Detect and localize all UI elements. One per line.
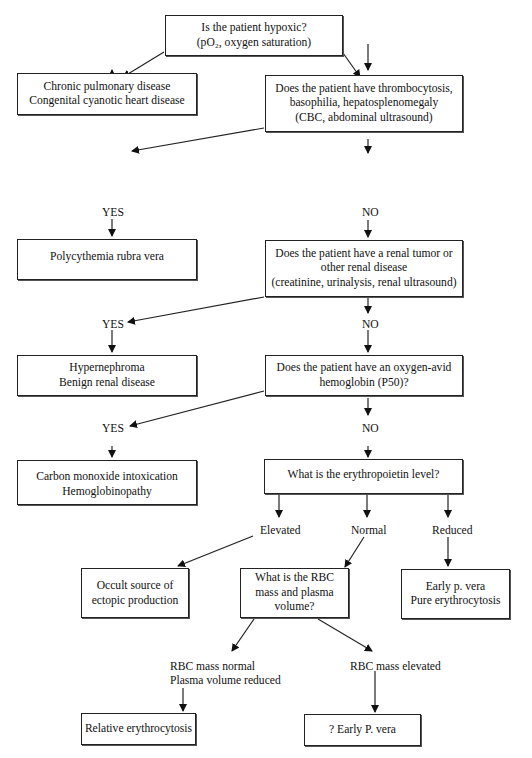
yes-label-4: YES [102, 422, 124, 436]
node-text: Hypernephroma [69, 361, 144, 376]
node-text: Is the patient hypoxic? [201, 21, 306, 36]
node-pulmonary: Chronic pulmonary disease Congenital cya… [17, 73, 197, 115]
node-hypoxic: Is the patient hypoxic? (pO₂, oxygen sat… [165, 15, 343, 56]
node-rbc-question: What is the RBC mass and plasma volume? [240, 568, 349, 618]
normal-label: Normal [351, 524, 386, 538]
node-text: Does the patient have thrombocytosis, [275, 82, 452, 97]
node-text: (CBC, abdominal ultrasound) [295, 111, 433, 126]
node-thrombocytosis: Does the patient have thrombocytosis, ba… [265, 75, 463, 132]
elevated-label: Elevated [260, 524, 301, 538]
node-early-pv: Early p. vera Pure erythrocytosis [401, 569, 510, 619]
node-text: What is the erythropoietin level? [288, 468, 440, 483]
node-text: Carbon monoxide intoxication [36, 470, 178, 485]
node-text: Does the patient have an oxygen-avid [277, 361, 452, 376]
node-epo-question: What is the erythropoietin level? [264, 459, 463, 494]
node-co-dx: Carbon monoxide intoxication Hemoglobino… [17, 460, 197, 505]
node-text: volume? [275, 600, 315, 615]
node-occult: Occult source of ectopic production [81, 568, 189, 618]
node-relative: Relative erythrocytosis [81, 713, 196, 745]
node-text: (pO₂, oxygen saturation) [197, 36, 311, 51]
node-question-early-pv: ? Early P. vera [304, 714, 421, 746]
node-text: Chronic pulmonary disease [44, 80, 171, 95]
node-text: Pure erythrocytosis [411, 594, 501, 609]
rbc-normal-label: RBC mass normal Plasma volume reduced [170, 660, 281, 688]
yes-label-3: YES [102, 318, 124, 332]
node-renal-question: Does the patient have a renal tumor or o… [265, 240, 463, 297]
node-text: Polycythemia rubra vera [50, 250, 164, 265]
yes-label-2: YES [102, 206, 124, 220]
node-hemoglobin-question: Does the patient have an oxygen-avid hem… [265, 355, 463, 396]
node-text: basophilia, hepatosplenomegaly [290, 96, 439, 111]
node-renal-dx: Hypernephroma Benign renal disease [17, 355, 197, 396]
node-text: Early p. vera [426, 580, 486, 595]
node-text: Occult source of [97, 579, 174, 594]
reduced-label: Reduced [432, 524, 473, 538]
rbc-elevated-label: RBC mass elevated [350, 660, 441, 674]
node-text: mass and plasma [255, 586, 334, 601]
no-label-2: NO [362, 206, 379, 220]
no-label-4: NO [362, 422, 379, 436]
node-text: Relative erythrocytosis [85, 722, 192, 737]
rbc-normal-line-1: RBC mass normal [170, 660, 281, 674]
rbc-normal-line-2: Plasma volume reduced [170, 674, 281, 688]
node-text: Benign renal disease [59, 376, 155, 391]
no-label-3: NO [362, 318, 379, 332]
node-text: hemoglobin (P50)? [319, 376, 408, 391]
node-text: What is the RBC [255, 571, 334, 586]
node-text: ectopic production [92, 594, 179, 609]
node-text: Hemoglobinopathy [62, 485, 152, 500]
node-text: (creatinine, urinalysis, renal ultrasoun… [271, 276, 456, 291]
node-text: other renal disease [321, 261, 407, 276]
node-text: ? Early P. vera [329, 723, 396, 738]
node-text: Does the patient have a renal tumor or [275, 247, 452, 262]
node-prv: Polycythemia rubra vera [17, 239, 197, 280]
node-text: Congenital cyanotic heart disease [29, 94, 185, 109]
